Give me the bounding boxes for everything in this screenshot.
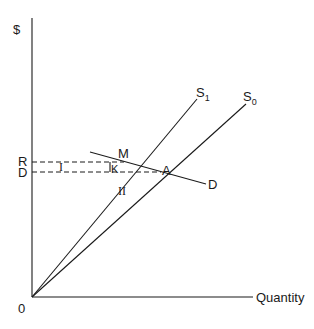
demand-label: D [208,177,217,192]
region-ii-label: II [118,184,126,198]
price-label-d: D [18,165,27,180]
demand-curve [90,152,206,184]
x-axis-label: Quantity [256,290,305,305]
region-i-label: I [59,160,63,174]
origin-label: 0 [18,301,25,316]
supply-curve-s1 [32,99,197,297]
point-m-label: M [118,146,129,161]
y-axis-label: $ [13,22,21,37]
point-a-label: A [162,163,171,178]
s1-label: S1 [196,85,210,103]
supply-demand-diagram: $ Quantity 0 R D S1 S0 D M K A I II [0,0,314,329]
point-k-label: K [111,163,119,175]
supply-curve-s0 [32,104,246,297]
